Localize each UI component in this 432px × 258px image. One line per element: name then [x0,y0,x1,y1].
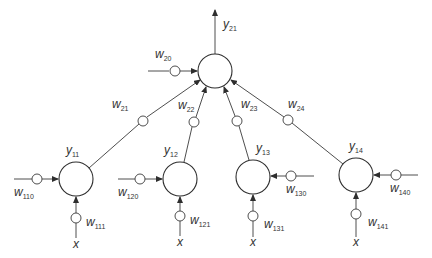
weight-node-w131 [248,211,258,221]
hidden-neuron-y11: y11 w110 w111 x [14,143,105,251]
weight-label-w24: w24 [288,97,305,112]
input-x4: x [352,235,360,249]
connection-y13-to-y21: w23 [224,87,258,160]
weight-node-w22 [189,117,199,127]
weight-node-w24 [283,115,293,125]
neuron-label-y14: y14 [348,139,363,154]
weight-node-w141 [351,209,361,219]
neuron-circle-y14 [339,158,373,192]
weight-label-w20: w20 [155,47,172,62]
weight-label-w121: w121 [190,213,210,228]
weight-label-w21: w21 [112,97,129,112]
connection-y11-to-y21: w21 [89,80,200,168]
weight-node-w20 [170,66,180,76]
input-x3: x [249,235,257,249]
neural-network-diagram: y21 w20 w21 w22 w23 [0,0,432,258]
weight-node-w23 [232,116,242,126]
neuron-label-y11: y11 [65,143,79,158]
connection-y12-to-y21: w22 [178,87,206,162]
weight-label-w110: w110 [14,185,34,200]
output-neuron-y21: y21 [198,10,237,88]
neuron-label-y13: y13 [255,141,270,156]
weight-label-w22: w22 [178,98,195,113]
hidden-neuron-y12: y12 w120 w121 x [118,143,210,249]
neuron-label-y12: y12 [163,143,178,158]
hidden-neuron-y14: y14 w140 w141 x [339,139,418,249]
weight-label-w131: w131 [264,217,284,232]
weight-node-w111 [71,213,81,223]
hidden-neuron-y13: y13 w130 w131 x [236,141,314,249]
weight-label-w140: w140 [390,181,410,196]
neuron-circle-y12 [163,162,197,196]
weight-label-w120: w120 [118,185,138,200]
weight-node-w130 [286,171,296,181]
weight-node-w110 [32,174,42,184]
neuron-circle-y11 [59,162,93,196]
bias-input-w20: w20 [148,47,197,76]
weight-node-w121 [175,211,185,221]
neuron-circle-y13 [236,160,270,194]
connection-y14-to-y21: w24 [231,80,343,164]
weight-label-w130: w130 [286,182,306,197]
weight-node-w21 [138,116,148,126]
weight-label-w141: w141 [368,215,388,230]
weight-node-w140 [391,170,401,180]
input-x2: x [176,235,184,249]
output-label-y21: y21 [222,17,237,32]
input-x1: x [72,237,80,251]
weight-node-w120 [135,174,145,184]
neuron-circle-y21 [198,54,232,88]
weight-label-w111: w111 [86,215,105,230]
weight-label-w23: w23 [241,97,258,112]
